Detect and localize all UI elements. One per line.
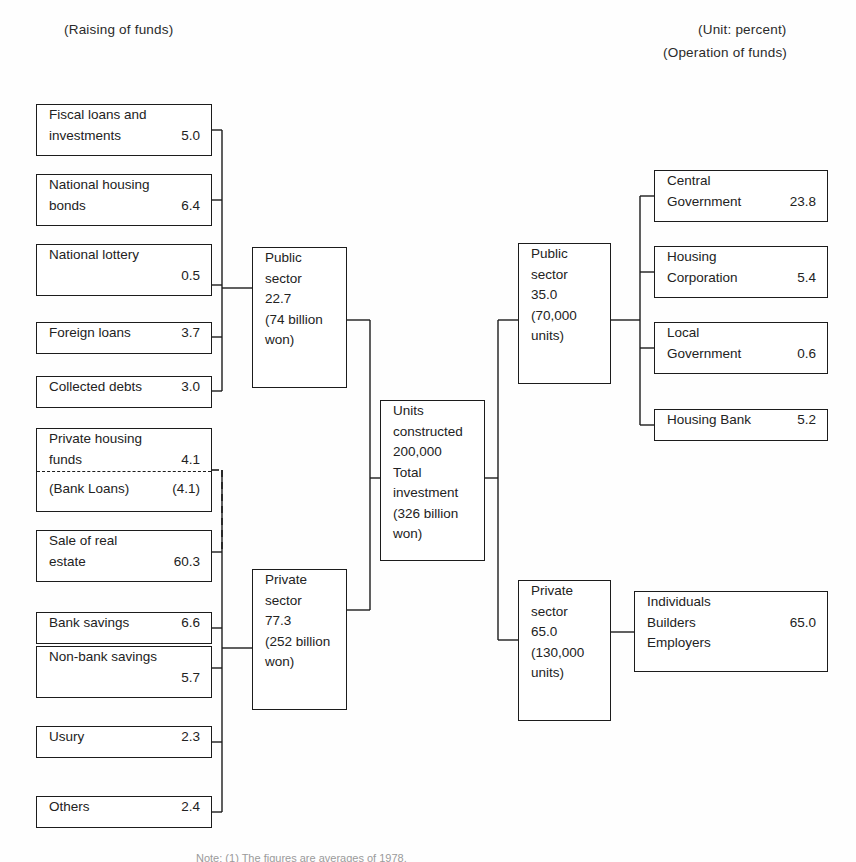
source-value: 6.6 (181, 613, 200, 634)
header-operation-of-funds: (Operation of funds) (663, 45, 787, 60)
source-box-non-bank-savings[interactable]: Non-bank savings 5.7 (36, 646, 212, 698)
sector-line2: sector (519, 265, 610, 286)
source-label-line1: Non-bank savings (37, 647, 211, 668)
source-box-sale-of-real-estate[interactable]: Sale of real estate60.3 (36, 530, 212, 582)
destination-box-local-government[interactable]: Local Government0.6 (654, 322, 828, 374)
destination-box-central-government[interactable]: Central Government23.8 (654, 170, 828, 222)
destination-value: 0.6 (797, 344, 816, 365)
source-value: 4.1 (181, 450, 200, 471)
sector-line3: 35.0 (519, 285, 610, 306)
source-value: 5.7 (181, 668, 200, 689)
source-box-others[interactable]: Others2.4 (36, 796, 212, 828)
sector-line1: Public (519, 244, 610, 265)
source-box-national-lottery[interactable]: National lottery 0.5 (36, 244, 212, 296)
sector-line2: sector (253, 269, 346, 290)
sector-line5: units) (519, 663, 610, 684)
source-box-bank-savings[interactable]: Bank savings6.6 (36, 612, 212, 644)
destination-box-housing-corporation[interactable]: Housing Corporation5.4 (654, 246, 828, 298)
source-label-line1: Others2.4 (37, 797, 211, 818)
operation-public-sector-box[interactable]: Public sector 35.0 (70,000 units) (518, 243, 611, 384)
raising-private-sector-box[interactable]: Private sector 77.3 (252 billion won) (252, 569, 347, 710)
destination-value: 23.8 (790, 192, 816, 213)
destination-label-line2: Government0.6 (655, 344, 827, 365)
sector-line2: sector (253, 591, 346, 612)
destination-label-line3: Employers (635, 633, 827, 654)
center-line4: Total (381, 463, 484, 484)
source-value: 0.5 (181, 266, 200, 287)
center-line6: (326 billion (381, 504, 484, 525)
source-value: 6.4 (181, 196, 200, 217)
source-value: 2.4 (181, 797, 200, 818)
source-value: 3.0 (181, 377, 200, 398)
source-value: (4.1) (172, 479, 200, 500)
source-label-line2: investments5.0 (37, 126, 211, 147)
source-label-line2: bonds6.4 (37, 196, 211, 217)
sector-line5: won) (253, 330, 346, 351)
destination-value: 5.4 (797, 268, 816, 289)
source-label-line1: Fiscal loans and (37, 105, 211, 126)
center-line5: investment (381, 483, 484, 504)
source-box-usury[interactable]: Usury2.3 (36, 726, 212, 758)
sector-line2: sector (519, 602, 610, 623)
source-box-fiscal-loans[interactable]: Fiscal loans and investments5.0 (36, 104, 212, 156)
destination-value: 65.0 (790, 613, 816, 634)
source-label-line1: Foreign loans3.7 (37, 323, 211, 344)
center-line1: Units (381, 401, 484, 422)
destination-label-line2: Builders65.0 (635, 613, 827, 634)
center-line2: constructed (381, 422, 484, 443)
source-box-collected-debts[interactable]: Collected debts3.0 (36, 376, 212, 408)
source-label-line2: estate60.3 (37, 552, 211, 573)
source-value: 3.7 (181, 323, 200, 344)
source-label-line1: Private housing (37, 429, 211, 450)
source-label-line1: Collected debts3.0 (37, 377, 211, 398)
center-line7: won) (381, 524, 484, 545)
header-unit: (Unit: percent) (698, 22, 787, 37)
source-label-line1: National lottery (37, 245, 211, 266)
source-value: 60.3 (174, 552, 200, 573)
destination-label-line1: Housing (655, 247, 827, 268)
sector-line1: Private (519, 581, 610, 602)
center-line3: 200,000 (381, 442, 484, 463)
source-label-line1: Sale of real (37, 531, 211, 552)
source-box-national-housing-bonds[interactable]: National housing bonds6.4 (36, 174, 212, 226)
source-box-foreign-loans[interactable]: Foreign loans3.7 (36, 322, 212, 354)
destination-label-line2: Government23.8 (655, 192, 827, 213)
source-value: 2.3 (181, 727, 200, 748)
sector-line4: (130,000 (519, 643, 610, 664)
destination-label-line1: Central (655, 171, 827, 192)
center-total-box[interactable]: Units constructed 200,000 Total investme… (380, 400, 485, 561)
header-raising-of-funds: (Raising of funds) (64, 22, 173, 37)
footnote: Note: (1) The figures are averages of 19… (196, 852, 666, 862)
destination-box-housing-bank[interactable]: Housing Bank5.2 (654, 409, 828, 441)
destination-box-individuals-builders-employers[interactable]: Individuals Builders65.0 Employers (634, 591, 828, 672)
destination-label-line1: Local (655, 323, 827, 344)
source-label-bank-loans: (Bank Loans)(4.1) (37, 479, 211, 500)
sector-line5: units) (519, 326, 610, 347)
sector-line3: 22.7 (253, 289, 346, 310)
source-box-private-housing-funds[interactable]: Private housing funds4.1 (Bank Loans)(4.… (36, 428, 212, 512)
operation-private-sector-box[interactable]: Private sector 65.0 (130,000 units) (518, 580, 611, 721)
dashed-divider (37, 471, 211, 472)
sector-line3: 65.0 (519, 622, 610, 643)
destination-label-line1: Housing Bank5.2 (655, 410, 827, 431)
sector-line3: 77.3 (253, 611, 346, 632)
destination-label-line2: Corporation5.4 (655, 268, 827, 289)
source-value: 5.0 (181, 126, 200, 147)
sector-line4: (74 billion (253, 310, 346, 331)
source-label-line1: Usury2.3 (37, 727, 211, 748)
raising-public-sector-box[interactable]: Public sector 22.7 (74 billion won) (252, 247, 347, 388)
source-label-line2: funds4.1 (37, 450, 211, 471)
diagram-canvas: (Raising of funds) (Unit: percent) (Oper… (0, 0, 856, 862)
source-label-line1: National housing (37, 175, 211, 196)
sector-line4: (252 billion (253, 632, 346, 653)
destination-label-line1: Individuals (635, 592, 827, 613)
sector-line1: Private (253, 570, 346, 591)
source-label-line1: Bank savings6.6 (37, 613, 211, 634)
sector-line1: Public (253, 248, 346, 269)
sector-line4: (70,000 (519, 306, 610, 327)
destination-value: 5.2 (797, 410, 816, 431)
sector-line5: won) (253, 652, 346, 673)
